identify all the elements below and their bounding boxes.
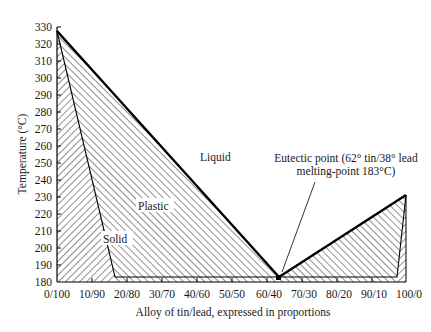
liquid-label: Liquid <box>200 151 231 164</box>
svg-text:0/100: 0/100 <box>44 288 70 300</box>
solid-label: Solid <box>103 233 128 245</box>
y-tick-labels: 330 320 310 300 290 280 270 260 250 240 … <box>35 21 53 288</box>
x-axis-title: Alloy of tin/lead, expressed in proporti… <box>136 306 331 319</box>
svg-text:190: 190 <box>35 259 53 271</box>
svg-text:80/20: 80/20 <box>326 288 352 300</box>
x-tick-labels: 0/100 10/90 20/80 30/70 40/60 50/50 60/4… <box>44 288 422 300</box>
svg-text:320: 320 <box>35 38 53 50</box>
svg-text:210: 210 <box>35 225 53 237</box>
y-axis-title: Temperature (°C) <box>16 113 29 194</box>
plastic-label: Plastic <box>138 200 169 212</box>
svg-text:290: 290 <box>35 89 53 101</box>
svg-text:90/10: 90/10 <box>361 288 387 300</box>
svg-text:220: 220 <box>35 208 53 220</box>
svg-text:100/0: 100/0 <box>396 288 422 300</box>
plastic-strip <box>115 277 397 282</box>
svg-text:30/70: 30/70 <box>149 288 175 300</box>
svg-text:200: 200 <box>35 242 53 254</box>
svg-text:50/50: 50/50 <box>219 288 245 300</box>
svg-text:280: 280 <box>35 106 53 118</box>
phase-diagram: 330 320 310 300 290 280 270 260 250 240 … <box>0 0 431 332</box>
svg-text:180: 180 <box>35 276 53 288</box>
svg-text:270: 270 <box>35 123 53 135</box>
svg-text:310: 310 <box>35 55 53 67</box>
svg-text:300: 300 <box>35 72 53 84</box>
svg-text:10/90: 10/90 <box>79 288 105 300</box>
svg-text:260: 260 <box>35 140 53 152</box>
svg-text:230: 230 <box>35 191 53 203</box>
svg-text:20/80: 20/80 <box>114 288 140 300</box>
svg-text:70/30: 70/30 <box>291 288 317 300</box>
svg-text:40/60: 40/60 <box>184 288 210 300</box>
svg-text:330: 330 <box>35 21 53 33</box>
eutectic-label-line1: Eutectic point (62° tin/38° lead <box>274 152 418 165</box>
svg-text:240: 240 <box>35 174 53 186</box>
eutectic-label-line2: melting-point 183°C) <box>297 165 396 178</box>
svg-text:250: 250 <box>35 157 53 169</box>
svg-text:60/40: 60/40 <box>256 288 282 300</box>
eutectic-marker <box>276 275 281 280</box>
